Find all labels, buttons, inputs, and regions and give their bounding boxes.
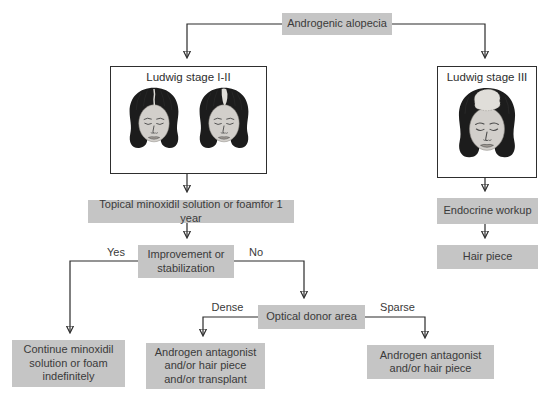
node-improvement-stabilization: Improvement or stabilization bbox=[138, 245, 234, 278]
branch-label-dense: Dense bbox=[205, 301, 250, 313]
edge-improvement-no bbox=[234, 261, 304, 297]
node-ludwig-stage-1-2: Ludwig stage I-II bbox=[110, 66, 267, 174]
ludwig-stage-2-face-illustration bbox=[191, 85, 257, 159]
edge-optical-dense bbox=[203, 317, 258, 335]
branch-label-sparse: Sparse bbox=[375, 301, 420, 313]
ludwig-stage-3-title: Ludwig stage III bbox=[447, 71, 528, 83]
edge-root-to-ludwig3 bbox=[392, 24, 485, 57]
node-continue-minoxidil: Continue minoxidil solution or foam inde… bbox=[12, 340, 125, 387]
node-hair-piece: Hair piece bbox=[437, 245, 538, 269]
node-androgen-antagonist-hairpiece: Androgen antagonist and/or hair piece bbox=[367, 345, 494, 379]
node-endocrine-workup: Endocrine workup bbox=[437, 198, 538, 224]
flowchart-canvas: Androgenic alopecia Ludwig stage I-II bbox=[0, 0, 542, 397]
node-ludwig-stage-3: Ludwig stage III bbox=[437, 66, 537, 178]
ludwig-stage-3-illustration-wrap bbox=[449, 85, 525, 170]
edge-optical-sparse bbox=[365, 317, 425, 337]
ludwig-stage-1-face-illustration bbox=[121, 85, 187, 159]
node-optical-donor-area: Optical donor area bbox=[258, 305, 365, 329]
edge-improvement-yes bbox=[70, 261, 138, 332]
branch-label-no: No bbox=[236, 246, 276, 258]
branch-label-yes: Yes bbox=[96, 246, 136, 258]
node-androgenic-alopecia: Androgenic alopecia bbox=[282, 13, 392, 35]
ludwig-stage-3-face-illustration bbox=[449, 85, 525, 170]
ludwig-stage-1-2-title: Ludwig stage I-II bbox=[146, 71, 230, 83]
edge-root-to-ludwig12 bbox=[187, 24, 282, 57]
node-topical-minoxidil: Topical minoxidil solution or foamfor 1 … bbox=[88, 200, 294, 223]
node-androgen-antagonist-transplant: Androgen antagonist and/or hair piece an… bbox=[146, 343, 265, 389]
ludwig-stage-1-2-illustrations bbox=[121, 85, 257, 159]
